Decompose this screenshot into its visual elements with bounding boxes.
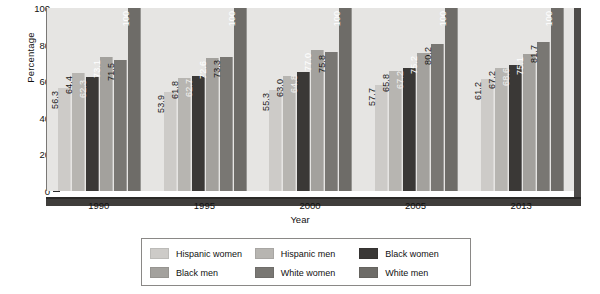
bar[interactable]: 62.7 [192, 76, 205, 191]
legend-swatch [359, 248, 378, 259]
legend-item[interactable]: White men [359, 267, 464, 278]
legend-label: Hispanic men [281, 249, 336, 259]
bar-group: 53.961.862.772.673.3100 [153, 8, 259, 191]
x-tick-label: 2000 [257, 200, 363, 211]
bar-groups: 56.364.462.373.171.510053.961.862.772.67… [47, 8, 575, 191]
bar-value-label: 100 [127, 0, 136, 11]
y-tick-label: 40 [16, 113, 50, 123]
bar[interactable]: 100 [128, 8, 141, 191]
bar[interactable]: 72.6 [206, 58, 219, 191]
y-tick-label: 80 [16, 40, 50, 50]
legend: Hispanic womenHispanic menBlack womenBla… [141, 238, 471, 286]
bar-value-label: 77.0 [309, 35, 318, 53]
bar-value-label: 100 [232, 0, 241, 11]
x-tick-label: 2013 [468, 200, 574, 211]
x-tick-label: 1990 [46, 200, 152, 211]
y-tick-label: 20 [16, 149, 50, 159]
bar[interactable]: 61.2 [481, 79, 494, 191]
bar-group: 56.364.462.373.171.5100 [47, 8, 153, 191]
bar[interactable]: 73.3 [220, 57, 233, 191]
bar[interactable]: 81.7 [537, 42, 550, 192]
y-tick-label: 100 [16, 3, 50, 13]
bar[interactable]: 68.6 [509, 65, 522, 191]
bar[interactable]: 100 [339, 8, 352, 191]
bar-value-label: 75.1 [520, 39, 529, 57]
y-axis-ticks: 020406080100 [16, 8, 50, 191]
bar-value-label: 100 [338, 0, 347, 11]
legend-label: Black women [385, 249, 439, 259]
plot-right-shadow [574, 8, 581, 197]
bar[interactable]: 55.3 [269, 90, 282, 191]
x-axis-ticks: 19901995200020052013 [46, 200, 574, 211]
bar-value-label: 61.2 [478, 64, 487, 82]
legend-item[interactable]: Hispanic women [150, 248, 255, 259]
y-tick-label: 60 [16, 76, 50, 86]
bar[interactable]: 80.2 [431, 44, 444, 191]
plot-area: 56.364.462.373.171.510053.961.862.772.67… [46, 8, 580, 191]
x-axis-title: Year [0, 214, 600, 225]
bar-group: 61.267.268.675.181.7100 [469, 8, 575, 191]
bar[interactable]: 67.2 [403, 68, 416, 191]
legend-item[interactable]: Hispanic men [255, 248, 360, 259]
bar[interactable]: 63.0 [283, 76, 296, 191]
bar-value-label: 64.4 [69, 58, 78, 76]
bar[interactable]: 62.3 [86, 77, 99, 191]
y-tick-mark [53, 191, 60, 192]
bar-group: 57.765.867.275.280.2100 [364, 8, 470, 191]
bar-value-label: 73.1 [97, 42, 106, 60]
legend-item[interactable]: White women [255, 267, 360, 278]
legend-swatch [150, 267, 169, 278]
legend-label: White men [385, 268, 428, 278]
legend-label: Black men [176, 268, 218, 278]
bar[interactable]: 71.5 [114, 60, 127, 191]
legend-label: White women [281, 268, 336, 278]
bar[interactable]: 75.8 [325, 52, 338, 191]
bar-value-label: 100 [443, 0, 452, 11]
legend-row: Hispanic womenHispanic menBlack women [150, 244, 464, 263]
bar[interactable]: 75.2 [417, 53, 430, 191]
bar-value-label: 80.2 [428, 29, 437, 47]
bar[interactable]: 75.1 [523, 54, 536, 191]
bar[interactable]: 100 [445, 8, 458, 191]
bar-value-label: 100 [549, 0, 558, 11]
bar[interactable]: 53.9 [164, 92, 177, 191]
bar-value-label: 75.8 [323, 37, 332, 55]
bar-value-label: 73.3 [217, 42, 226, 60]
legend-row: Black menWhite womenWhite men [150, 263, 464, 282]
legend-swatch [255, 248, 274, 259]
y-tick-label: 0 [16, 186, 50, 196]
bar-value-label: 81.7 [534, 27, 543, 45]
bar-value-label: 71.5 [111, 45, 120, 63]
bar[interactable]: 100 [234, 8, 247, 191]
legend-label: Hispanic women [176, 249, 242, 259]
legend-swatch [359, 267, 378, 278]
x-tick-label: 2005 [363, 200, 469, 211]
x-tick-label: 1995 [152, 200, 258, 211]
bar-value-label: 72.6 [203, 43, 212, 61]
legend-swatch [255, 267, 274, 278]
bar-value-label: 68.6 [506, 51, 515, 69]
bar-group: 55.363.064.877.075.8100 [258, 8, 364, 191]
bar[interactable]: 67.2 [495, 68, 508, 191]
bar[interactable]: 57.7 [375, 85, 388, 191]
bar-chart: Percentage 020406080100 56.364.462.373.1… [0, 0, 600, 294]
legend-item[interactable]: Black men [150, 267, 255, 278]
legend-item[interactable]: Black women [359, 248, 464, 259]
bar-value-label: 67.2 [492, 53, 501, 71]
bar[interactable]: 100 [551, 8, 564, 191]
plot-background: 56.364.462.373.171.510053.961.862.772.67… [46, 8, 574, 191]
legend-swatch [150, 248, 169, 259]
bar[interactable]: 64.8 [297, 72, 310, 191]
bar[interactable]: 56.3 [58, 88, 71, 191]
